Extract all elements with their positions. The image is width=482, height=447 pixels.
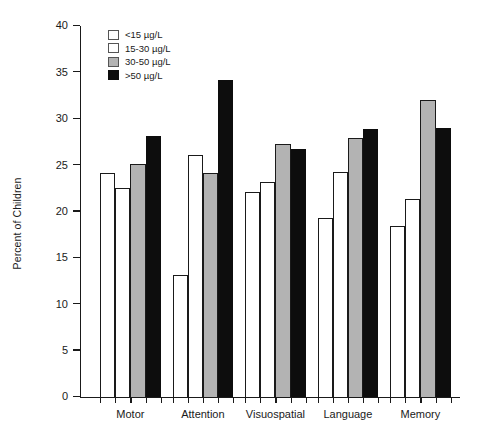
y-axis-tick: 0: [73, 396, 80, 397]
x-axis-tick: [100, 397, 101, 403]
legend-swatch-icon: [108, 70, 119, 80]
x-axis-tick: [245, 397, 246, 403]
x-axis-tick: [420, 397, 421, 403]
bar: [363, 129, 378, 397]
y-axis-tick-label: 0: [62, 390, 68, 402]
legend-item-label: 15-30 µg/L: [125, 43, 171, 54]
x-axis-tick: [405, 397, 406, 403]
y-axis-tick-label: 40: [56, 19, 68, 31]
y-axis-tick-label: 30: [56, 112, 68, 124]
x-axis-tick: [378, 397, 379, 403]
plot-area: 0510152025303540 MotorAttentionVisuospat…: [80, 26, 460, 397]
bar: [333, 172, 348, 397]
legend-item: 15-30 µg/L: [108, 43, 171, 54]
x-axis-category-label: Language: [323, 408, 372, 420]
bar: [420, 100, 435, 397]
x-axis-tick: [146, 397, 147, 403]
x-axis-category-label: Visuospatial: [246, 408, 305, 420]
x-axis-tick: [203, 397, 204, 403]
x-axis-tick: [115, 397, 116, 403]
y-axis-tick: 25: [73, 164, 80, 165]
y-axis-tick-label: 10: [56, 298, 68, 310]
y-axis-tick: 10: [73, 303, 80, 304]
legend-item-label: >50 µg/L: [125, 70, 162, 81]
x-axis-category-label: Memory: [401, 408, 441, 420]
legend: <15 µg/L15-30 µg/L30-50 µg/L>50 µg/L: [108, 29, 171, 81]
x-axis-tick: [390, 397, 391, 403]
legend-item: <15 µg/L: [108, 29, 171, 40]
y-axis-tick: 40: [73, 25, 80, 26]
x-axis-tick: [130, 397, 131, 403]
y-axis-tick: 20: [73, 210, 80, 211]
bar: [348, 138, 363, 397]
bar: [203, 173, 218, 397]
y-axis-title: Percent of Children: [0, 0, 34, 447]
legend-item-label: 30-50 µg/L: [125, 56, 171, 67]
x-axis-tick: [333, 397, 334, 403]
legend-item: >50 µg/L: [108, 70, 171, 81]
y-axis-tick-label: 25: [56, 159, 68, 171]
x-axis-category-label: Attention: [181, 408, 224, 420]
legend-item: 30-50 µg/L: [108, 56, 171, 67]
x-axis-tick: [306, 397, 307, 403]
bar-chart-figure: Percent of Children 0510152025303540 Mot…: [0, 0, 482, 447]
x-axis-tick: [233, 397, 234, 403]
bar: [115, 188, 130, 397]
bar: [436, 128, 451, 397]
x-axis-tick: [348, 397, 349, 403]
bar: [390, 226, 405, 397]
bar: [405, 199, 420, 397]
x-axis-tick: [275, 397, 276, 403]
x-axis-tick: [291, 397, 292, 403]
y-axis-tick-label: 20: [56, 205, 68, 217]
x-axis-tick: [318, 397, 319, 403]
x-axis-tick: [173, 397, 174, 403]
x-axis-tick: [363, 397, 364, 403]
bar: [146, 136, 161, 397]
y-axis-tick: 35: [73, 71, 80, 72]
x-axis-tick: [451, 397, 452, 403]
x-axis-tick: [260, 397, 261, 403]
x-axis-line: [80, 397, 460, 398]
y-axis-tick-label: 35: [56, 66, 68, 78]
bar: [100, 173, 115, 397]
legend-swatch-icon: [108, 30, 119, 40]
bar: [318, 218, 333, 397]
x-axis-category-label: Motor: [116, 408, 144, 420]
bar: [275, 144, 290, 397]
x-axis-tick: [161, 397, 162, 403]
y-axis-line: [80, 26, 81, 397]
bar: [218, 80, 233, 397]
bar: [130, 164, 145, 397]
bar: [291, 149, 306, 397]
y-axis-tick: 15: [73, 257, 80, 258]
x-axis-tick: [436, 397, 437, 403]
bar: [260, 182, 275, 397]
x-axis-tick: [218, 397, 219, 403]
legend-swatch-icon: [108, 57, 119, 67]
legend-item-label: <15 µg/L: [125, 29, 162, 40]
y-axis-tick: 5: [73, 349, 80, 350]
y-axis-tick-label: 15: [56, 251, 68, 263]
legend-swatch-icon: [108, 43, 119, 53]
bar: [245, 192, 260, 397]
y-axis-tick-label: 5: [62, 344, 68, 356]
y-axis-tick: 30: [73, 118, 80, 119]
bar: [188, 155, 203, 397]
x-axis-tick: [188, 397, 189, 403]
bar: [173, 275, 188, 397]
